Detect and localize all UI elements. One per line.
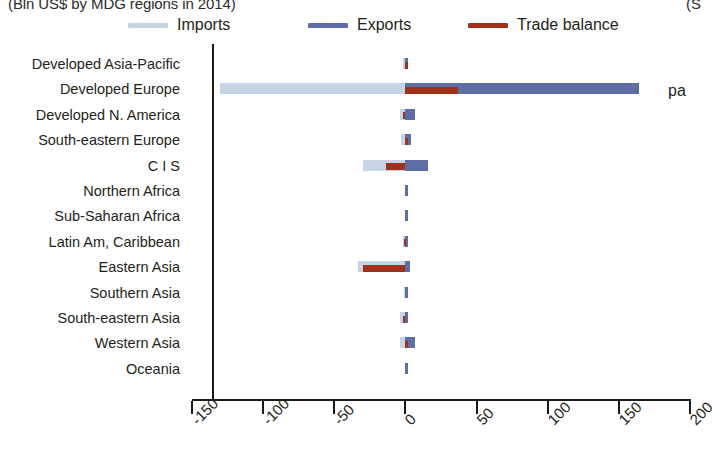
y-axis-label: C I S (0, 154, 182, 179)
y-axis-category-labels: Developed Asia-PacificDeveloped EuropeDe… (0, 52, 182, 382)
chart-title: (Bln US$ by MDG regions in 2014) (8, 0, 236, 12)
legend-swatch-icon (468, 23, 508, 28)
y-axis-label: Southern Asia (0, 281, 182, 306)
x-axis-tick-label: 0 (401, 410, 419, 428)
side-note-text: pa (668, 82, 686, 100)
bar-trade-balance (404, 239, 406, 246)
y-axis-label: South-eastern Europe (0, 128, 182, 153)
bar-trade-balance (386, 163, 406, 170)
legend-swatch-icon (308, 23, 348, 28)
legend-swatch-icon (128, 23, 168, 28)
bar-exports (405, 210, 407, 221)
chart-title-right: (S (686, 0, 701, 12)
legend-label: Exports (357, 17, 411, 33)
y-axis-label: South-eastern Asia (0, 306, 182, 331)
bar-group (192, 309, 690, 334)
bar-group (192, 284, 690, 309)
legend-label: Trade balance (517, 17, 619, 33)
y-axis-label: Northern Africa (0, 179, 182, 204)
bar-trade-balance (405, 87, 458, 94)
bar-trade-balance (405, 138, 407, 145)
bar-group (192, 157, 690, 182)
bar-trade-balance (405, 341, 408, 348)
x-axis-line (192, 399, 691, 401)
bar-group (192, 233, 690, 258)
bar-exports (405, 363, 407, 374)
bar-group (192, 258, 690, 283)
y-axis-label: Western Asia (0, 331, 182, 356)
bar-trade-balance (405, 62, 407, 69)
plot-area (192, 55, 690, 396)
bar-group (192, 131, 690, 156)
bar-group (192, 207, 690, 232)
legend-item-exports: Exports (308, 17, 411, 33)
bar-group (192, 55, 690, 80)
bar-imports (220, 83, 405, 94)
bar-exports (405, 312, 408, 323)
bar-group (192, 334, 690, 359)
bar-trade-balance (403, 316, 406, 323)
bar-exports (405, 261, 409, 272)
bar-exports (405, 109, 415, 120)
y-axis-label: Developed N. America (0, 103, 182, 128)
bar-group (192, 80, 690, 105)
bar-exports (405, 287, 407, 298)
zero-axis-line (212, 44, 214, 400)
legend-item-trade-balance: Trade balance (468, 17, 619, 33)
bar-exports (405, 160, 428, 171)
y-axis-label: Latin Am, Caribbean (0, 230, 182, 255)
bar-trade-balance (403, 112, 406, 119)
bar-trade-balance (363, 265, 406, 272)
bar-group (192, 106, 690, 131)
bar-group (192, 182, 690, 207)
y-axis-label: Eastern Asia (0, 255, 182, 280)
bar-group (192, 360, 690, 385)
y-axis-label: Developed Europe (0, 77, 182, 102)
y-axis-label: Sub-Saharan Africa (0, 204, 182, 229)
bar-exports (405, 185, 407, 196)
legend-label: Imports (177, 17, 230, 33)
y-axis-label: Oceania (0, 357, 182, 382)
legend-item-imports: Imports (128, 17, 230, 33)
chart-legend: ImportsExportsTrade balance (128, 17, 548, 41)
y-axis-label: Developed Asia-Pacific (0, 52, 182, 77)
